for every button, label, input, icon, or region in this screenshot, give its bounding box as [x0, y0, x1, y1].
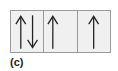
orbital-box-diagram [10, 10, 111, 53]
orbital-cell-1 [11, 11, 44, 52]
spin-up-arrow-icon [78, 11, 110, 52]
spin-down-arrow-icon [11, 11, 43, 52]
figure-label: (c) [10, 56, 23, 68]
orbital-cell-2 [44, 11, 77, 52]
orbital-cell-3 [78, 11, 110, 52]
spin-up-arrow-icon [44, 11, 76, 52]
